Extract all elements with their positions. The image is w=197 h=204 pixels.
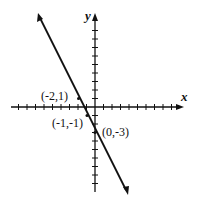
point-0-neg3 (94, 131, 97, 134)
graph-svg (0, 0, 197, 204)
point-label-0-neg3: (0,-3) (102, 125, 129, 140)
point-neg1-neg1 (86, 114, 89, 117)
point-label-neg2-1: (-2,1) (41, 89, 68, 104)
point-label-neg1-neg1: (-1,-1) (52, 116, 83, 131)
x-axis-label: x (181, 89, 188, 105)
point-neg2-1 (77, 97, 80, 100)
line-arrow-bottom-icon (123, 186, 129, 195)
y-axis-arrow-icon (92, 13, 98, 21)
coordinate-plane: y x (-2,1) (-1,-1) (0,-3) (0, 0, 197, 204)
y-axis-label: y (85, 8, 91, 24)
